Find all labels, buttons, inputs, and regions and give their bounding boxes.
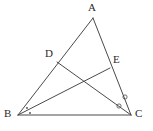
vertex-label-e: E xyxy=(113,54,120,65)
segment-be xyxy=(18,68,110,115)
vertex-label-d: D xyxy=(45,48,53,59)
segments-group xyxy=(18,18,131,115)
geometry-canvas xyxy=(0,0,153,131)
segment-dc xyxy=(57,62,131,115)
angle-mark-dot-b xyxy=(26,107,28,109)
segment-ab xyxy=(18,18,93,115)
vertex-label-c: C xyxy=(135,108,142,119)
vertex-label-b: B xyxy=(4,108,11,119)
geometry-figure: A B C D E xyxy=(0,0,153,131)
segment-ac xyxy=(93,18,131,115)
angle-mark-dot-b xyxy=(29,112,31,114)
vertex-label-a: A xyxy=(88,2,96,13)
angle-marks-group xyxy=(26,95,127,114)
